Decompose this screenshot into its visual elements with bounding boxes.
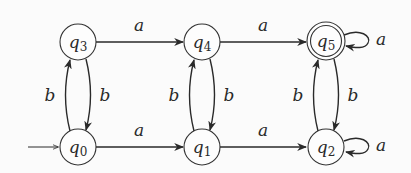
state-q0-initial: q0 — [60, 129, 96, 165]
edge-q3-q4: a — [96, 15, 183, 42]
edge-q3-q0: b — [86, 59, 110, 130]
self-loop-q5: a — [344, 29, 386, 49]
svg-text:b: b — [224, 85, 235, 105]
state-q2: q2 — [308, 129, 344, 165]
edge-q1-q2: a — [220, 120, 306, 147]
state-q5-accepting: q5 — [307, 22, 345, 60]
automaton-diagram: a a a a b b b b b b a — [0, 0, 411, 173]
svg-text:a: a — [258, 15, 268, 35]
edge-q1-q4: b — [169, 60, 194, 131]
svg-text:b: b — [348, 85, 359, 105]
svg-text:a: a — [258, 120, 268, 140]
state-q4: q4 — [184, 24, 220, 60]
svg-text:b: b — [293, 85, 304, 105]
svg-text:a: a — [134, 15, 144, 35]
svg-text:b: b — [169, 85, 180, 105]
svg-text:a: a — [376, 135, 386, 155]
state-q3: q3 — [60, 24, 96, 60]
state-q1: q1 — [184, 129, 220, 165]
edge-q0-q1: a — [96, 120, 183, 147]
edge-q4-q5: a — [220, 15, 306, 42]
svg-text:b: b — [45, 85, 56, 105]
edge-q5-q2: b — [334, 59, 358, 130]
self-loop-q2: a — [344, 135, 386, 155]
svg-text:b: b — [100, 85, 111, 105]
edge-q2-q5: b — [293, 60, 318, 131]
edge-q0-q3: b — [45, 60, 70, 131]
svg-text:a: a — [376, 29, 386, 49]
svg-text:a: a — [134, 120, 144, 140]
edge-q4-q1: b — [210, 59, 234, 130]
